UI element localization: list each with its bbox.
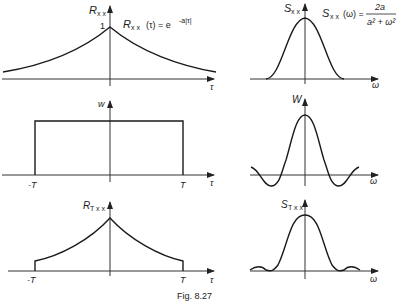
- tick-minus-T: -T: [28, 180, 38, 190]
- panel-autocorrelation: R x x 1 R x x (τ) = e -a|τ| τ: [2, 4, 216, 92]
- formula-exp: -a|τ|: [179, 17, 192, 25]
- formula-num: 2a: [374, 2, 385, 12]
- panel-windowed-psd: S T x x ω: [250, 199, 378, 284]
- x-label: ω: [370, 274, 377, 284]
- x-label: τ: [210, 82, 214, 92]
- tick-minus-T: -T: [27, 275, 37, 285]
- formula-lhs: S: [322, 7, 330, 19]
- y-label: S: [281, 199, 288, 210]
- panel-psd: S x x S x x (ω) = 2a a² + ω² ω: [250, 2, 396, 90]
- formula-lhs: R: [123, 18, 131, 30]
- window-curve: [35, 121, 183, 175]
- panel-window-spectrum: W ω: [250, 94, 378, 186]
- formula-sub: x x: [330, 13, 339, 20]
- formula-arg: (ω) =: [343, 9, 364, 19]
- formula-den: a² + ω²: [367, 17, 396, 27]
- panel-window: w -T T τ: [2, 99, 214, 190]
- formula-sub: x x: [131, 24, 140, 31]
- y-label: R: [89, 4, 97, 16]
- figure-canvas: R x x 1 R x x (τ) = e -a|τ| τ S x x S x …: [0, 0, 398, 301]
- y-label-sub: T x x: [90, 205, 106, 212]
- x-label: ω: [370, 176, 377, 186]
- y-label-sub: T x x: [288, 204, 304, 211]
- tick-T: T: [180, 275, 187, 285]
- x-label: τ: [210, 178, 214, 188]
- y-label: w: [98, 99, 105, 109]
- tick-T: T: [180, 180, 187, 190]
- figure-caption: Fig. 8.27: [177, 291, 212, 301]
- x-label: ω: [372, 80, 379, 90]
- peak-label: 1: [100, 21, 105, 31]
- y-label-sub: x x: [291, 8, 300, 15]
- x-label: τ: [210, 275, 214, 285]
- y-label-sub: x x: [97, 10, 106, 17]
- panel-windowed-autocorrelation: R T x x -T T τ: [8, 200, 214, 285]
- y-label: W: [292, 94, 303, 105]
- formula-arg: (τ) = e: [146, 20, 171, 30]
- windowed-autocorrelation-curve: [35, 218, 183, 271]
